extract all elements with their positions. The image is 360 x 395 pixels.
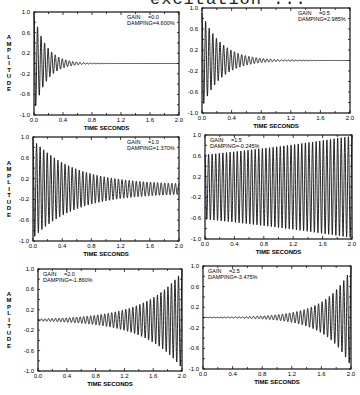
damping-value: -3.475% — [237, 274, 258, 280]
x-tick-label: 1.2 — [288, 371, 297, 377]
x-tick-label: 0.8 — [258, 371, 267, 377]
y-tick-label: -0.6 — [189, 345, 200, 351]
y-tick-label: 1.0 — [191, 263, 200, 269]
x-tick-label: 2.0 — [347, 371, 356, 377]
x-tick-label: 0.0 — [199, 371, 208, 377]
x-tick-label: 0.4 — [228, 371, 237, 377]
y-tick-label: -1.0 — [189, 366, 200, 372]
y-tick-label: 0.6 — [191, 284, 200, 290]
damping-label: DAMPING= — [208, 274, 237, 280]
x-axis-label: TIME SECONDS — [254, 379, 300, 385]
y-tick-label: 0.2 — [191, 304, 200, 310]
y-tick-label: -0.2 — [189, 325, 200, 331]
response-waveform — [203, 269, 351, 363]
x-tick-label: 1.6 — [317, 371, 326, 377]
